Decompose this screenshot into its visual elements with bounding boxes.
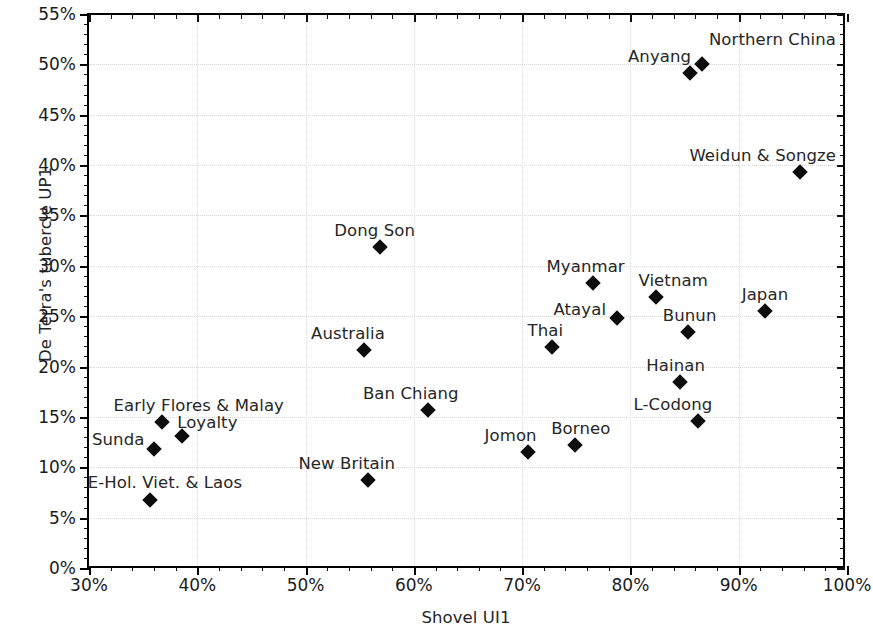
y-axis-tick xyxy=(80,64,89,66)
y-axis-minor-tick xyxy=(84,508,89,509)
x-axis-minor-tick xyxy=(436,566,437,571)
x-axis-top-minor-tick xyxy=(371,14,372,19)
data-point-marker[interactable] xyxy=(694,57,710,73)
x-axis-top-minor-tick xyxy=(219,14,220,19)
data-point-label: Atayal xyxy=(553,300,606,319)
y-axis-right-tick xyxy=(837,165,845,167)
y-axis-tick xyxy=(80,165,89,167)
data-point-label: Ban Chiang xyxy=(363,384,459,403)
data-point-marker[interactable] xyxy=(610,310,626,326)
y-axis-right-minor-tick xyxy=(840,155,845,156)
y-axis-minor-tick xyxy=(84,356,89,357)
data-point-marker[interactable] xyxy=(690,413,706,429)
x-axis-minor-tick xyxy=(154,566,155,571)
data-point-marker[interactable] xyxy=(682,66,698,82)
y-axis-tick xyxy=(80,367,89,369)
y-axis-right-minor-tick xyxy=(840,356,845,357)
data-point-marker[interactable] xyxy=(793,164,809,180)
y-axis-minor-tick xyxy=(84,145,89,146)
data-point-marker[interactable] xyxy=(373,239,389,255)
y-axis-right-minor-tick xyxy=(840,276,845,277)
data-point-marker[interactable] xyxy=(420,402,436,418)
x-axis-top-minor-tick xyxy=(349,14,350,19)
x-axis-top-minor-tick xyxy=(457,14,458,19)
data-point-label: Myanmar xyxy=(547,257,625,276)
y-axis-tick-label: 5% xyxy=(49,508,76,528)
y-axis-right-minor-tick xyxy=(840,437,845,438)
data-point-marker[interactable] xyxy=(142,492,158,508)
data-point-marker[interactable] xyxy=(361,473,377,489)
y-axis-minor-tick xyxy=(84,246,89,247)
y-axis-minor-tick xyxy=(84,226,89,227)
x-axis-minor-tick xyxy=(652,566,653,571)
y-axis-right-minor-tick xyxy=(840,205,845,206)
y-axis-minor-tick xyxy=(84,326,89,327)
data-point-label: Jomon xyxy=(485,426,537,445)
data-point-label: Borneo xyxy=(551,419,610,438)
y-axis-minor-tick xyxy=(84,95,89,96)
x-axis-minor-tick xyxy=(111,566,112,571)
y-axis-tick xyxy=(80,467,89,469)
y-axis-tick-label: 15% xyxy=(38,407,76,427)
x-axis-minor-tick xyxy=(219,566,220,571)
y-axis-minor-tick xyxy=(84,558,89,559)
x-axis-top-minor-tick xyxy=(436,14,437,19)
data-point-label: Sunda xyxy=(92,430,144,449)
x-axis-top-minor-tick xyxy=(132,14,133,19)
data-point-marker[interactable] xyxy=(585,275,601,291)
gridline-horizontal xyxy=(89,367,845,368)
x-axis-top-tick xyxy=(197,14,199,22)
y-axis-right-minor-tick xyxy=(840,145,845,146)
y-axis-minor-tick xyxy=(84,34,89,35)
y-axis-right-minor-tick xyxy=(840,135,845,136)
data-point-marker[interactable] xyxy=(567,437,583,453)
y-axis-minor-tick xyxy=(84,125,89,126)
y-axis-tick-label: 40% xyxy=(38,155,76,175)
data-point-marker[interactable] xyxy=(545,340,561,356)
x-axis-top-tick xyxy=(522,14,524,22)
x-axis-title: Shovel UI1 xyxy=(87,608,845,627)
y-axis-tick xyxy=(80,316,89,318)
y-axis-right-tick xyxy=(837,518,845,520)
y-axis-minor-tick xyxy=(84,205,89,206)
y-axis-right-tick xyxy=(837,215,845,217)
x-axis-minor-tick xyxy=(176,566,177,571)
x-axis-tick xyxy=(197,566,199,575)
y-axis-tick xyxy=(80,14,89,16)
x-axis-minor-tick xyxy=(609,566,610,571)
data-point-marker[interactable] xyxy=(672,374,688,390)
data-point-marker[interactable] xyxy=(649,289,665,305)
y-axis-right-tick xyxy=(837,467,845,469)
y-axis-right-tick xyxy=(837,316,845,318)
y-axis-right-minor-tick xyxy=(840,447,845,448)
y-axis-right-minor-tick xyxy=(840,125,845,126)
y-axis-right-minor-tick xyxy=(840,256,845,257)
y-axis-right-minor-tick xyxy=(840,497,845,498)
x-axis-tick-label: 100% xyxy=(823,575,872,595)
y-axis-right-minor-tick xyxy=(840,377,845,378)
y-axis-minor-tick xyxy=(84,155,89,156)
y-axis-minor-tick xyxy=(84,427,89,428)
x-axis-tick xyxy=(414,566,416,575)
x-axis-tick-label: 90% xyxy=(720,575,758,595)
data-point-marker[interactable] xyxy=(356,343,372,359)
y-axis-right-tick xyxy=(837,115,845,117)
x-axis-tick-label: 80% xyxy=(612,575,650,595)
y-axis-minor-tick xyxy=(84,195,89,196)
y-axis-right-tick xyxy=(837,14,845,16)
data-point-label: Hainan xyxy=(646,356,705,375)
y-axis-right-minor-tick xyxy=(840,457,845,458)
x-axis-tick xyxy=(522,566,524,575)
gridline-horizontal xyxy=(89,165,845,166)
data-point-marker[interactable] xyxy=(146,441,162,457)
x-axis-minor-tick xyxy=(262,566,263,571)
x-axis-top-minor-tick xyxy=(804,14,805,19)
scatter-chart-figure: De Terra's tubercle UP1 Shovel UI1 0%5%1… xyxy=(0,0,873,635)
y-axis-minor-tick xyxy=(84,346,89,347)
data-point-marker[interactable] xyxy=(680,325,696,341)
x-axis-tick-label: 30% xyxy=(70,575,108,595)
y-axis-minor-tick xyxy=(84,175,89,176)
data-point-label: Bunun xyxy=(663,306,717,325)
x-axis-top-minor-tick xyxy=(760,14,761,19)
data-point-label: Northern China xyxy=(709,30,836,49)
